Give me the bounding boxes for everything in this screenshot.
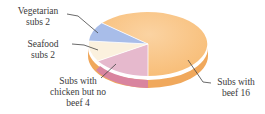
label-beef-line2: beef 16 <box>210 88 262 99</box>
label-beef-line1: Subs with <box>210 77 262 88</box>
label-vegetarian-line2: subs 2 <box>8 17 68 28</box>
label-beef: Subs with beef 16 <box>210 77 262 99</box>
label-vegetarian: Vegetarian subs 2 <box>8 6 68 28</box>
pie-slices <box>89 12 208 76</box>
label-chicken-line3: beef 4 <box>38 98 118 109</box>
label-chicken-line2: chicken but no <box>38 87 118 98</box>
label-chicken-line1: Subs with <box>38 76 118 87</box>
label-seafood-line1: Seafood <box>18 39 68 50</box>
label-chicken: Subs with chicken but no beef 4 <box>38 76 118 109</box>
label-seafood: Seafood subs 2 <box>18 39 68 61</box>
label-vegetarian-line1: Vegetarian <box>8 6 68 17</box>
label-seafood-line2: subs 2 <box>18 50 68 61</box>
